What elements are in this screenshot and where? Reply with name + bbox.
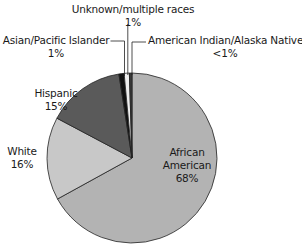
label-unknown: Unknown/multiple races 1% bbox=[70, 3, 196, 29]
label-hispanic-pct: 15% bbox=[26, 100, 86, 113]
label-white: White 16% bbox=[4, 145, 40, 171]
label-hispanic-name: Hispanic bbox=[26, 87, 86, 100]
label-unknown-pct: 1% bbox=[70, 16, 196, 29]
label-hispanic: Hispanic 15% bbox=[26, 87, 86, 113]
label-asian: Asian/Pacific Islander 1% bbox=[2, 34, 110, 60]
label-white-name: White bbox=[4, 145, 40, 158]
label-african-american-pct: 68% bbox=[147, 172, 227, 185]
label-white-pct: 16% bbox=[4, 158, 40, 171]
label-unknown-name: Unknown/multiple races bbox=[70, 3, 196, 16]
label-asian-name: Asian/Pacific Islander bbox=[2, 34, 110, 47]
label-african-american-name: African bbox=[147, 146, 227, 159]
label-african-american: African American 68% bbox=[147, 146, 227, 185]
label-asian-pct: 1% bbox=[2, 47, 110, 60]
label-african-american-name2: American bbox=[147, 159, 227, 172]
leader-asian bbox=[111, 41, 125, 76]
label-american-indian: American Indian/Alaska Native <1% bbox=[148, 34, 302, 60]
label-american-indian-name: American Indian/Alaska Native bbox=[148, 34, 302, 47]
leader-american-indian bbox=[132, 42, 146, 75]
label-american-indian-pct: <1% bbox=[148, 47, 302, 60]
leader-lines bbox=[111, 24, 147, 76]
